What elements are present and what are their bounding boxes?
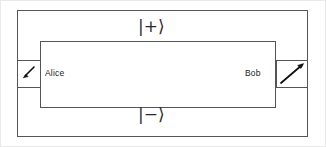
alice-label: Alice [45, 69, 64, 78]
inner-path-loop [41, 42, 276, 108]
bob-label: Bob [245, 69, 261, 78]
quantum-channel-diagram: Alice Bob |+⟩ |−⟩ [0, 0, 326, 147]
ket-minus-label: |−⟩ [138, 106, 165, 123]
ket-plus-label: |+⟩ [138, 18, 165, 35]
alice-device-box[interactable] [18, 61, 41, 88]
